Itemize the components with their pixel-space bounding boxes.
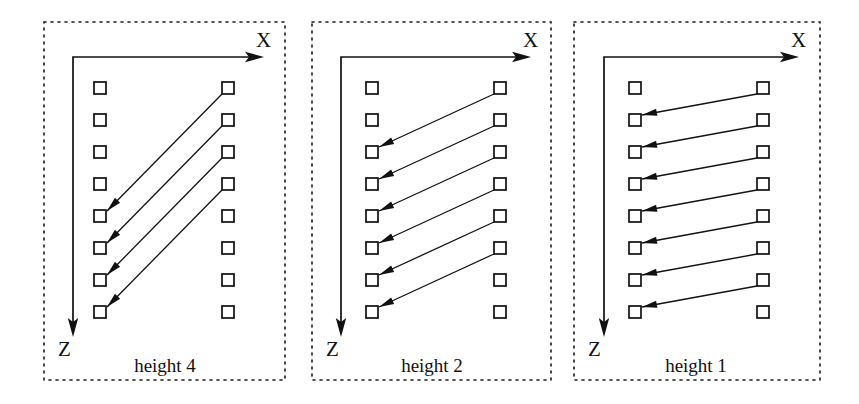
dependency-arrowhead <box>379 297 394 307</box>
grid-cell-right-6 <box>222 242 234 254</box>
grid-cell-right-4 <box>757 178 769 190</box>
grid-cell-left-7 <box>629 274 641 286</box>
z-axis-label: Z <box>326 337 339 361</box>
grid-cell-left-1 <box>94 82 106 94</box>
grid-cell-left-6 <box>366 242 378 254</box>
panel-caption: height 1 <box>665 355 727 376</box>
grid-cell-right-8 <box>494 306 506 318</box>
grid-cell-right-2 <box>757 114 769 126</box>
grid-cell-left-5 <box>366 210 378 222</box>
dependency-arrow-line <box>642 94 757 115</box>
dependency-arrow-line <box>642 190 757 211</box>
grid-cell-left-4 <box>366 178 378 190</box>
dependency-arrowhead <box>642 301 657 308</box>
grid-cell-left-5 <box>94 210 106 222</box>
grid-cell-left-2 <box>629 114 641 126</box>
grid-cell-left-8 <box>366 306 378 318</box>
grid-cell-left-1 <box>629 82 641 94</box>
grid-cell-right-7 <box>757 274 769 286</box>
dependency-arrow-line <box>107 94 222 211</box>
dependency-arrowhead <box>379 265 394 275</box>
dependency-arrow-line <box>642 286 757 307</box>
dependency-arrow-line <box>642 222 757 243</box>
dependency-arrow-line <box>107 158 222 275</box>
dependency-arrowhead <box>379 169 394 179</box>
grid-cell-right-5 <box>222 210 234 222</box>
grid-cell-left-2 <box>94 114 106 126</box>
panel-height-2: XZheight 2 <box>312 22 551 380</box>
x-axis-label: X <box>523 28 538 52</box>
dependency-arrow-line <box>379 126 494 179</box>
grid-cell-right-6 <box>757 242 769 254</box>
grid-cell-left-4 <box>629 178 641 190</box>
dependency-arrowhead <box>642 141 657 148</box>
grid-cell-right-5 <box>757 210 769 222</box>
x-axis-label: X <box>256 28 271 52</box>
panel-height-4: XZheight 4 <box>44 22 285 380</box>
dependency-arrow-line <box>107 190 222 307</box>
grid-cell-left-6 <box>629 242 641 254</box>
x-axis-label: X <box>791 28 806 52</box>
dependency-arrow-line <box>379 254 494 307</box>
grid-cell-right-3 <box>494 146 506 158</box>
grid-cell-left-7 <box>366 274 378 286</box>
panel-frame <box>312 22 551 380</box>
grid-cell-right-2 <box>494 114 506 126</box>
grid-cell-right-4 <box>222 178 234 190</box>
dependency-arrowhead <box>642 237 657 244</box>
dependency-arrowhead <box>642 269 657 276</box>
dependency-figure: XZheight 4XZheight 2XZheight 1 <box>0 0 859 404</box>
grid-cell-left-8 <box>629 306 641 318</box>
dependency-arrowhead <box>642 173 657 180</box>
grid-cell-left-7 <box>94 274 106 286</box>
grid-cell-right-7 <box>222 274 234 286</box>
grid-cell-right-6 <box>494 242 506 254</box>
grid-cell-right-1 <box>222 82 234 94</box>
grid-cell-right-8 <box>222 306 234 318</box>
grid-cell-right-1 <box>494 82 506 94</box>
figure-canvas: XZheight 4XZheight 2XZheight 1 <box>0 0 859 404</box>
z-axis-label: Z <box>58 337 71 361</box>
grid-cell-left-3 <box>366 146 378 158</box>
dependency-arrow-line <box>379 94 494 147</box>
dependency-arrowhead <box>379 201 394 211</box>
dependency-arrow-line <box>642 126 757 147</box>
dependency-arrowhead <box>642 109 657 116</box>
panel-frame <box>44 22 285 380</box>
dependency-arrow-line <box>107 126 222 243</box>
dependency-arrow-line <box>379 158 494 211</box>
z-axis-label: Z <box>588 337 601 361</box>
grid-cell-right-5 <box>494 210 506 222</box>
grid-cell-left-6 <box>94 242 106 254</box>
dependency-arrow-line <box>642 254 757 275</box>
grid-cell-right-2 <box>222 114 234 126</box>
grid-cell-right-7 <box>494 274 506 286</box>
dependency-arrow-line <box>642 158 757 179</box>
grid-cell-right-8 <box>757 306 769 318</box>
grid-cell-left-8 <box>94 306 106 318</box>
grid-cell-left-1 <box>366 82 378 94</box>
grid-cell-left-4 <box>94 178 106 190</box>
grid-cell-right-3 <box>222 146 234 158</box>
panel-caption: height 2 <box>401 355 463 376</box>
dependency-arrowhead <box>379 137 394 147</box>
grid-cell-left-2 <box>366 114 378 126</box>
grid-cell-left-3 <box>629 146 641 158</box>
panel-height-1: XZheight 1 <box>574 22 820 380</box>
dependency-arrowhead <box>642 205 657 212</box>
grid-cell-left-5 <box>629 210 641 222</box>
grid-cell-left-3 <box>94 146 106 158</box>
grid-cell-right-3 <box>757 146 769 158</box>
grid-cell-right-4 <box>494 178 506 190</box>
dependency-arrow-line <box>379 222 494 275</box>
grid-cell-right-1 <box>757 82 769 94</box>
dependency-arrow-line <box>379 190 494 243</box>
dependency-arrowhead <box>379 233 394 243</box>
panels-root: XZheight 4XZheight 2XZheight 1 <box>44 22 820 380</box>
panel-caption: height 4 <box>134 355 196 376</box>
